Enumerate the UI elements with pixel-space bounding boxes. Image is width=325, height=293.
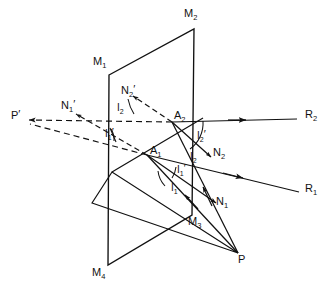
label-i2-prime: I2′ [197, 130, 206, 141]
dashed-axis-a2-to-pprime [29, 120, 172, 122]
diagram-canvas [0, 0, 325, 293]
dashed-ray-a1-to-pprime [30, 124, 147, 155]
label-m1: M1 [93, 56, 106, 67]
label-i2-lower: I2 [190, 152, 197, 162]
label-a2: A2 [174, 110, 186, 121]
label-m4: M4 [92, 267, 105, 278]
label-r1: R1 [305, 183, 317, 194]
emergent-ray-arrowheads [223, 120, 246, 178]
secondary-plane [92, 172, 238, 253]
label-p-prime: P′ [11, 110, 20, 121]
label-i1-prime: I1′ [177, 164, 186, 175]
label-i2: I2 [117, 103, 124, 113]
label-i1: I1 [171, 183, 178, 193]
arrowhead-r1 [223, 173, 243, 178]
label-n2: N2 [213, 147, 225, 158]
label-p: P [238, 254, 245, 265]
angle-arcs [111, 99, 203, 186]
angle-arc-i2 [128, 99, 134, 114]
label-n1-prime: N1′ [61, 100, 75, 111]
optics-ray-diagram: M1 M2 M3 M4 A1 A2 P P′ R1 R2 N1 N2 N1′ N… [0, 0, 325, 293]
normal-n1 [147, 155, 216, 203]
secondary-plane-triangle [92, 172, 238, 253]
label-r2: R2 [305, 109, 317, 120]
label-n2-prime: N2′ [121, 85, 135, 96]
label-i1-prime-left: I1′ [105, 128, 114, 139]
label-n1: N1 [216, 196, 228, 207]
label-a1: A1 [150, 145, 162, 156]
label-m3: M3 [188, 216, 201, 227]
dashed-normal-n2-prime [133, 96, 172, 122]
label-m2: M2 [184, 8, 197, 19]
